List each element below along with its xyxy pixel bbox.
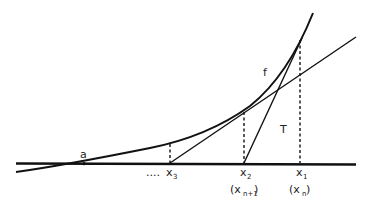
svg-text:(x: (x (289, 183, 300, 196)
function-label: f (263, 66, 268, 79)
x2-label: x 2 (240, 166, 251, 181)
x3-label: x 3 (166, 166, 177, 181)
svg-text:): ) (254, 183, 258, 196)
newton-method-diagram: a f T .... x 3 x 2 (x n+1 ) x 1 (x n ) (0, 0, 370, 204)
x2-alt-label: (x n+1 ) (230, 183, 258, 198)
tangent-label: T (279, 123, 287, 136)
svg-text:(x: (x (230, 183, 241, 196)
tangent-line-at-x2 (170, 37, 356, 163)
svg-text:x: x (240, 166, 247, 179)
svg-text:1: 1 (303, 173, 307, 181)
x1-alt-label: (x n ) (289, 183, 310, 198)
svg-text:): ) (306, 183, 310, 196)
svg-text:3: 3 (173, 173, 177, 181)
svg-text:2: 2 (247, 173, 251, 181)
ellipsis-label: .... (146, 166, 160, 179)
tangent-line-at-x1 (244, 38, 302, 163)
root-point (82, 162, 85, 165)
function-curve (16, 13, 313, 172)
svg-text:x: x (296, 166, 303, 179)
x1-label: x 1 (296, 166, 307, 181)
root-label: a (80, 148, 87, 161)
svg-text:x: x (166, 166, 173, 179)
